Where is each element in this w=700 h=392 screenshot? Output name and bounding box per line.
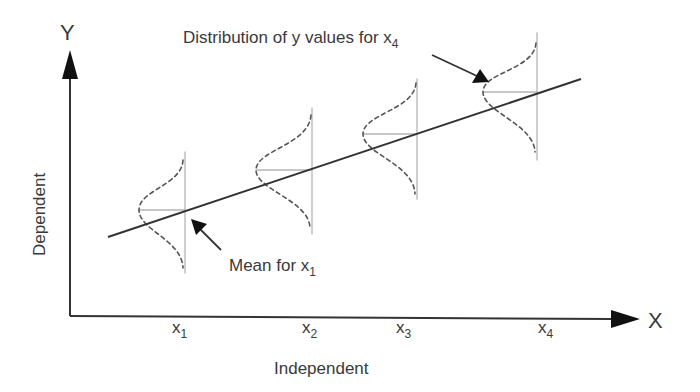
annotation-mean: Mean for x1 [191, 219, 316, 279]
x-axis: X Independent [70, 308, 663, 378]
y-axis-letter: Y [60, 20, 75, 45]
x-axis-arrow-icon [611, 310, 640, 328]
y-axis: Y Dependent [30, 20, 78, 316]
x-axis-label: Independent [274, 359, 369, 378]
annotation-distribution: Distribution of y values for x4 [183, 28, 489, 83]
regression-diagram: Y Dependent X Independent x1 x2 x3 x4 [0, 0, 700, 392]
distribution-x1 [139, 152, 185, 273]
tick-x1: x1 [172, 318, 188, 341]
y-axis-arrow-icon [62, 50, 78, 79]
x-tick-labels: x1 x2 x3 x4 [172, 318, 554, 341]
tick-x4: x4 [538, 318, 554, 341]
tick-x3: x3 [396, 318, 412, 341]
distribution-arrow-icon [472, 69, 489, 83]
distribution-annotation-text: Distribution of y values for x4 [183, 28, 399, 51]
x-axis-letter: X [648, 308, 663, 333]
regression-line [108, 79, 581, 237]
y-axis-label: Dependent [30, 173, 49, 256]
mean-annotation-text: Mean for x1 [229, 256, 316, 279]
distribution-x3 [363, 79, 417, 199]
tick-x2: x2 [302, 318, 318, 341]
